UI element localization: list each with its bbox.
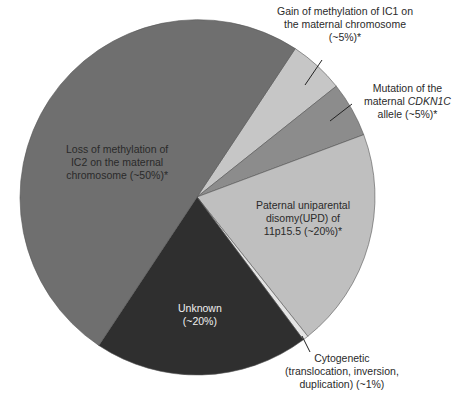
label-cytogenetic: Cytogenetic (translocation, inversion, d… <box>285 352 399 391</box>
label-paternal-upd: Paternal uniparental disomy(UPD) of 11p1… <box>256 199 350 238</box>
pie-chart <box>0 0 461 397</box>
label-unknown: Unknown (~20%) <box>178 302 222 328</box>
label-mutation-cdkn1c: Mutation of the maternal CDKN1C allele (… <box>364 82 451 121</box>
label-loss-of-methylation-ic2: Loss of methylation of IC2 on the matern… <box>66 143 168 182</box>
gene-name-cdkn1c: CDKN1C <box>408 95 451 107</box>
label-gain-of-methylation-ic1: Gain of methylation of IC1 on the matern… <box>277 5 413 44</box>
leader-line-cytogenetic <box>302 336 310 352</box>
